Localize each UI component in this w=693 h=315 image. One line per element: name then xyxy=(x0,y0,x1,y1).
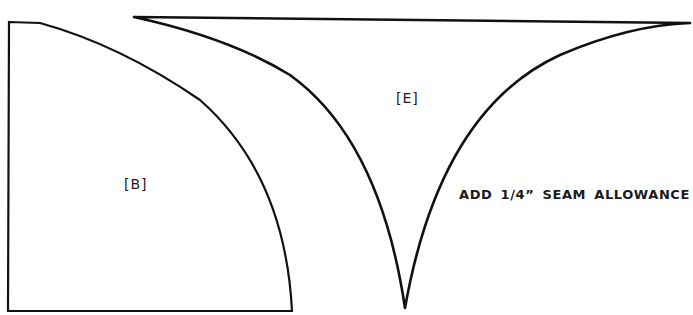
piece-b-label: [B] xyxy=(124,176,148,192)
pattern-canvas xyxy=(0,0,693,315)
piece-b-outline xyxy=(8,22,292,311)
seam-allowance-note: ADD 1/4” SEAM ALLOWANCE xyxy=(459,187,690,202)
piece-e-label: [E] xyxy=(396,90,419,106)
piece-e-outline xyxy=(134,17,690,308)
